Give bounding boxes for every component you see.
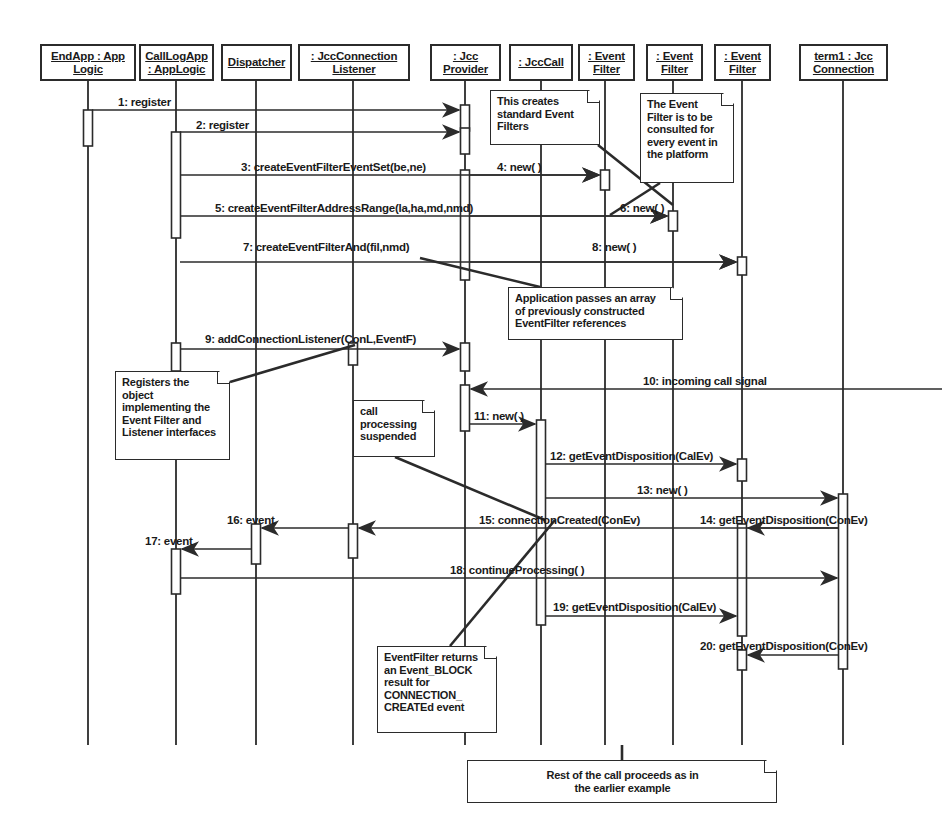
note-text-line: Application passes an array [515, 292, 677, 305]
message-label-10: 10: incoming call signal [643, 375, 767, 387]
message-label-7: 7: createEventFilterAnd(fil,nmd) [243, 241, 409, 253]
activation-bar-jccprovider [461, 128, 470, 154]
lifeline-header-evfilter1[interactable]: : EventFilter [578, 44, 635, 81]
message-label-14: 14: getEventDisposition(ConEv) [700, 514, 868, 526]
note-text-line: This creates [497, 95, 594, 108]
message-label-12: 12: getEventDisposition(CalEv) [550, 450, 713, 462]
note-text-line: Registers the [122, 376, 224, 389]
message-label-11: 11: new( ) [474, 410, 524, 422]
message-label-9: 9: addConnectionListener(ConL,EventF) [205, 333, 416, 345]
note-array-of-references[interactable]: Application passes an arrayof previously… [508, 287, 683, 340]
note-text-line: Filters [497, 120, 594, 133]
activation-bar-evfilter3 [738, 257, 747, 275]
activation-bar-jccprovider [461, 170, 470, 280]
lifeline-header-label: CallLogApp [145, 50, 208, 63]
lifeline-header-label: Logic [73, 63, 103, 76]
message-label-5: 5: createEventFilterAddressRange(la,ha,m… [215, 202, 473, 214]
note-registers-object[interactable]: Registers theobjectimplementing theEvent… [115, 371, 230, 460]
activation-bar-evfilter3 [738, 459, 747, 481]
activation-bar-dispatcher [252, 524, 261, 564]
lifeline-header-evfilter3[interactable]: : EventFilter [714, 44, 771, 81]
note-text: EventFilter returnsan Event_BLOCKresult … [384, 651, 491, 714]
note-standard-filters[interactable]: This createsstandard EventFilters [490, 90, 600, 145]
lifeline-header-evfilter2[interactable]: : EventFilter [646, 44, 703, 81]
note-call-processing-suspended[interactable]: callprocessingsuspended [353, 400, 435, 457]
lifeline-header-label: Dispatcher [228, 56, 285, 69]
activation-bar-jccprovider [461, 385, 470, 431]
message-label-8: 8: new( ) [592, 241, 636, 253]
lifeline-header-term1[interactable]: term1 : JccConnection [799, 44, 888, 81]
note-dogear-icon [670, 288, 682, 300]
lifeline-header-label: : JccConnection [311, 50, 397, 63]
note-text-line: Event Filter and [122, 414, 224, 427]
note-dogear-icon [484, 647, 496, 659]
note-text-line: the platform [647, 148, 728, 161]
message-label-3: 3: createEventFilterEventSet(be,ne) [241, 161, 426, 173]
activation-bar-jccprovider [461, 105, 470, 131]
lifeline-header-label: Filter [729, 63, 756, 76]
message-label-19: 19: getEventDisposition(CalEv) [553, 601, 716, 613]
note-text-line: every event in [647, 136, 728, 149]
message-label-6: 6: new( ) [620, 202, 664, 214]
lifeline-header-calllogapp[interactable]: CallLogApp: AppLogic [139, 44, 214, 81]
lifeline-header-label: term1 : Jcc [814, 50, 873, 63]
lifeline-header-label: : Event [656, 50, 693, 63]
note-text-line: the earlier example [546, 782, 698, 795]
lifeline-header-jcclistener[interactable]: : JccConnectionListener [298, 44, 410, 81]
note-dogear-icon [587, 91, 599, 103]
lifeline-header-label: Connection [813, 63, 874, 76]
note-eventfilter-returns-block[interactable]: EventFilter returnsan Event_BLOCKresult … [377, 646, 497, 733]
note-text: This createsstandard EventFilters [497, 95, 594, 133]
lifeline-header-label: EndApp : App [51, 50, 125, 63]
message-label-16: 16: event [227, 514, 275, 526]
lifeline-header-label: Provider [443, 63, 488, 76]
note-text-line: suspended [360, 430, 429, 443]
note-text-line: The Event [647, 98, 728, 111]
note-rest-of-call[interactable]: Rest of the call proceeds as inthe earli… [467, 760, 777, 803]
activation-bar-jcclistener [349, 343, 358, 365]
message-label-2: 2: register [196, 119, 249, 131]
message-label-13: 13: new( ) [637, 484, 688, 496]
note-text-line: standard Event [497, 108, 594, 121]
note-text-line: EventFilter references [515, 317, 677, 330]
note-text-line: Rest of the call proceeds as in [546, 769, 698, 782]
note-text-line: an Event_BLOCK [384, 664, 491, 677]
note-anchor-line [450, 520, 555, 646]
message-label-1: 1: register [118, 96, 171, 108]
note-consulted-every-event[interactable]: The EventFilter is to beconsulted foreve… [640, 93, 734, 183]
lifeline-header-endapp[interactable]: EndApp : AppLogic [40, 44, 136, 81]
lifeline-header-label: : Event [724, 50, 761, 63]
lifeline-header-label: : JccCall [518, 56, 564, 69]
activation-bar-calllogapp [172, 343, 181, 371]
sequence-diagram-canvas: EndApp : AppLogicCallLogApp: AppLogicDis… [0, 0, 946, 839]
note-text: Application passes an arrayof previously… [515, 292, 677, 330]
activation-bar-evfilter3 [738, 650, 747, 670]
note-text-line: implementing the [122, 401, 224, 414]
note-anchor-line [395, 457, 545, 520]
message-label-20: 20: getEventDisposition(ConEv) [700, 640, 868, 652]
message-label-15: 15: connectionCreated(ConEv) [479, 514, 640, 526]
note-text-line: result for [384, 676, 491, 689]
lifeline-header-label: Filter [661, 63, 688, 76]
lifeline-header-label: Filter [593, 63, 620, 76]
lifeline-header-jcccall[interactable]: : JccCall [509, 44, 573, 81]
lifeline-header-label: : Jcc [453, 50, 478, 63]
message-label-17: 17: event [145, 535, 193, 547]
note-text: callprocessingsuspended [360, 405, 429, 443]
lifeline-header-dispatcher[interactable]: Dispatcher [221, 44, 292, 81]
note-text-line: CONNECTION_ [384, 689, 491, 702]
note-text-line: processing [360, 418, 429, 431]
note-text: Registers theobjectimplementing theEvent… [122, 376, 224, 439]
lifeline-header-label: : Event [588, 50, 625, 63]
note-dogear-icon [422, 401, 434, 413]
activation-bar-evfilter2 [669, 211, 678, 231]
activation-bar-calllogapp [172, 132, 181, 238]
note-text-line: consulted for [647, 123, 728, 136]
note-text-line: EventFilter returns [384, 651, 491, 664]
activation-bar-evfilter3 [738, 524, 747, 636]
note-text-line: Filter is to be [647, 111, 728, 124]
lifeline-header-jccprovider[interactable]: : JccProvider [430, 44, 501, 81]
note-text-line: object [122, 389, 224, 402]
note-text: The EventFilter is to beconsulted foreve… [647, 98, 728, 161]
activation-bar-jcclistener [349, 524, 358, 558]
